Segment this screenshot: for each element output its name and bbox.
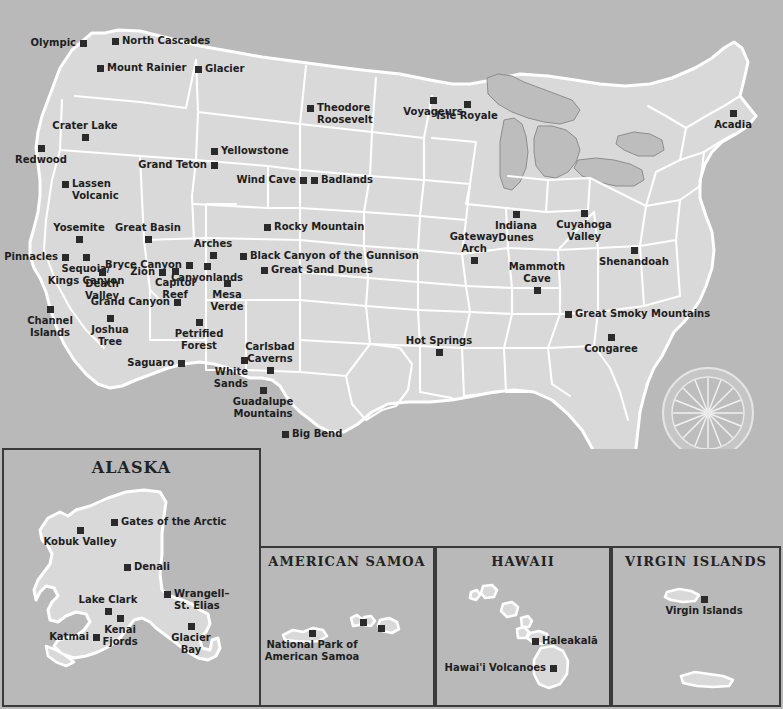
main-map-contiguous-us: OlympicNorth CascadesMount RainierGlacie… <box>0 0 783 449</box>
park-marker-icon <box>532 638 539 645</box>
park-marker-icon <box>172 268 179 275</box>
park-marker-icon <box>62 254 69 261</box>
park-label: Acadia <box>714 119 752 131</box>
park-marker-icon <box>267 367 274 374</box>
park-marker-icon <box>378 625 385 632</box>
inset-panel-hawaii: HAWAII HaleakalāHawai'i Volcanoes <box>435 546 611 707</box>
park-marker-icon <box>204 263 211 270</box>
park-marker-icon <box>211 148 218 155</box>
park-marker-icon <box>105 608 112 615</box>
park-label: Grand Canyon <box>91 296 170 308</box>
inset-panel-alaska: ALASKA Gates of the ArcticKobuk ValleyDe… <box>2 448 261 707</box>
park-marker-icon <box>117 615 124 622</box>
park-marker-icon <box>112 38 119 45</box>
park-marker-icon <box>196 319 203 326</box>
alaska-landmass <box>4 450 259 705</box>
park-marker-icon <box>83 254 90 261</box>
park-label: Joshua Tree <box>91 324 129 347</box>
park-label: Guadalupe Mountains <box>233 396 293 419</box>
park-label: Isle Royale <box>436 110 497 122</box>
park-marker-icon <box>76 236 83 243</box>
park-label: Kobuk Valley <box>44 536 117 548</box>
park-label: Haleakalā <box>542 635 598 647</box>
park-marker-icon <box>159 269 166 276</box>
park-label: Shenandoah <box>599 256 669 268</box>
park-marker-icon <box>550 665 557 672</box>
inset-panel-american-samoa: AMERICAN SAMOA National Park of American… <box>259 546 435 707</box>
park-label: Virgin Islands <box>665 605 742 617</box>
park-marker-icon <box>145 236 152 243</box>
compass-rose <box>662 367 754 449</box>
park-marker-icon <box>581 210 588 217</box>
national-parks-map: OlympicNorth CascadesMount RainierGlacie… <box>0 0 783 709</box>
park-label: Great Sand Dunes <box>271 264 373 276</box>
park-label: Petrified Forest <box>175 328 224 351</box>
park-label: Zion <box>130 266 155 278</box>
park-marker-icon <box>174 299 181 306</box>
park-marker-icon <box>97 65 104 72</box>
park-marker-icon <box>99 269 106 276</box>
park-marker-icon <box>513 211 520 218</box>
park-label: Black Canyon of the Gunnison <box>250 250 419 262</box>
park-label: Yosemite <box>53 222 104 234</box>
park-marker-icon <box>38 145 45 152</box>
park-label: North Cascades <box>122 35 210 47</box>
american-samoa-landmass <box>261 548 433 705</box>
park-marker-icon <box>178 360 185 367</box>
inset-panel-virgin-islands: VIRGIN ISLANDS Virgin Islands <box>611 546 781 707</box>
park-label: Cuyahoga Valley <box>556 219 612 242</box>
park-marker-icon <box>730 110 737 117</box>
park-marker-icon <box>430 97 437 104</box>
park-marker-icon <box>307 105 314 112</box>
park-marker-icon <box>311 177 318 184</box>
park-marker-icon <box>240 253 247 260</box>
park-label: Glacier <box>205 63 244 75</box>
park-marker-icon <box>565 311 572 318</box>
park-marker-icon <box>300 177 307 184</box>
park-label: Hawai'i Volcanoes <box>445 662 546 674</box>
park-label: Badlands <box>321 174 373 186</box>
park-label: Gateway Arch <box>450 231 499 254</box>
park-label: Olympic <box>31 37 76 49</box>
park-label: Big Bend <box>292 428 342 440</box>
park-marker-icon <box>93 634 100 641</box>
park-label: Crater Lake <box>52 120 117 132</box>
park-marker-icon <box>77 527 84 534</box>
park-marker-icon <box>261 267 268 274</box>
hawaii-landmass <box>437 548 609 705</box>
park-label: Channel Islands <box>27 315 73 338</box>
park-marker-icon <box>211 162 218 169</box>
park-label: National Park of American Samoa <box>265 639 360 662</box>
park-label: Carlsbad Caverns <box>245 341 294 364</box>
park-label: White Sands <box>214 366 248 389</box>
park-label: Katmai <box>49 631 89 643</box>
park-marker-icon <box>80 40 87 47</box>
park-label: Yellowstone <box>221 145 289 157</box>
park-label: Redwood <box>15 154 67 166</box>
park-label: Saguaro <box>127 357 174 369</box>
park-marker-icon <box>260 387 267 394</box>
park-marker-icon <box>111 519 118 526</box>
park-marker-icon <box>107 315 114 322</box>
park-marker-icon <box>464 101 471 108</box>
park-label: Mesa Verde <box>211 289 244 312</box>
park-label: Wind Cave <box>236 174 296 186</box>
park-label: Indiana Dunes <box>495 220 537 243</box>
park-marker-icon <box>534 287 541 294</box>
park-label: Great Smoky Mountains <box>575 308 710 320</box>
park-label: Theodore Roosevelt <box>317 102 373 125</box>
park-marker-icon <box>282 431 289 438</box>
virgin-islands-landmass <box>613 548 779 705</box>
park-label: Gates of the Arctic <box>121 516 227 528</box>
park-marker-icon <box>360 619 367 626</box>
park-marker-icon <box>631 247 638 254</box>
park-marker-icon <box>210 252 217 259</box>
park-marker-icon <box>195 66 202 73</box>
park-label: Rocky Mountain <box>274 221 364 233</box>
park-label: Mammoth Cave <box>509 261 565 284</box>
park-marker-icon <box>436 349 443 356</box>
park-marker-icon <box>164 591 171 598</box>
park-label: Great Basin <box>115 222 181 234</box>
park-label: Denali <box>134 561 170 573</box>
park-marker-icon <box>47 306 54 313</box>
